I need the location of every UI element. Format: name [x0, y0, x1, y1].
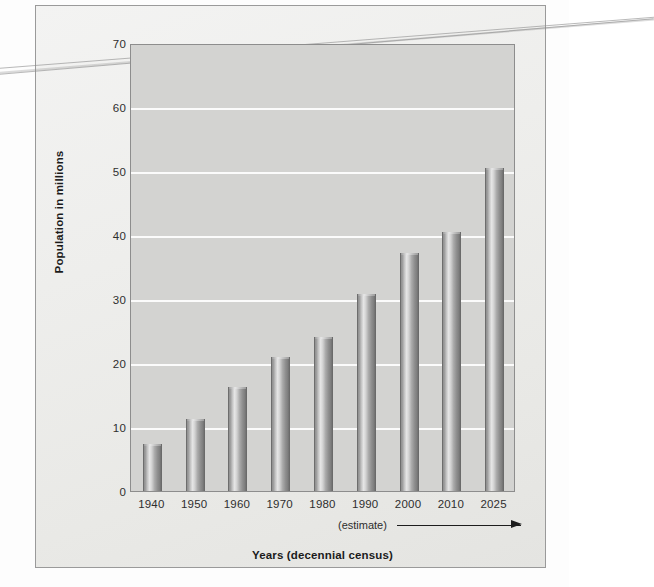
y-axis: 010203040506070	[84, 44, 126, 492]
x-tick-label: 1950	[171, 498, 217, 510]
bar-2000	[400, 253, 419, 491]
gridline	[131, 172, 514, 174]
plot-area	[130, 44, 515, 492]
bar-1970	[271, 357, 290, 491]
y-tick-label: 60	[92, 102, 126, 114]
y-tick-label: 10	[92, 422, 126, 434]
bar-1990	[357, 294, 376, 491]
x-tick-label: 1990	[342, 498, 388, 510]
y-axis-title: Population in millions	[53, 117, 65, 307]
x-tick-label: 2025	[471, 498, 517, 510]
bar-1950	[186, 419, 205, 491]
bar-2025	[485, 168, 504, 491]
bar-1960	[228, 387, 247, 491]
bar-1940	[143, 444, 162, 491]
y-tick-label: 50	[92, 166, 126, 178]
x-tick-label: 2010	[428, 498, 474, 510]
y-tick-label: 30	[92, 294, 126, 306]
estimate-arrow-icon	[397, 525, 521, 526]
bar-2010	[442, 232, 461, 491]
estimate-annotation: (estimate)	[338, 519, 521, 531]
x-tick-label: 1960	[214, 498, 260, 510]
x-tick-label: 1970	[257, 498, 303, 510]
y-tick-label: 0	[92, 486, 126, 498]
x-tick-label: 1980	[300, 498, 346, 510]
y-tick-label: 40	[92, 230, 126, 242]
x-axis: (estimate) Years (decennial census) 1940…	[130, 492, 515, 587]
y-tick-label: 70	[92, 38, 126, 50]
x-axis-title: Years (decennial census)	[130, 549, 515, 561]
estimate-label: (estimate)	[338, 519, 387, 531]
bar-1980	[314, 337, 333, 491]
x-tick-label: 1940	[128, 498, 174, 510]
x-tick-label: 2000	[385, 498, 431, 510]
y-tick-label: 20	[92, 358, 126, 370]
gridline	[131, 108, 514, 110]
